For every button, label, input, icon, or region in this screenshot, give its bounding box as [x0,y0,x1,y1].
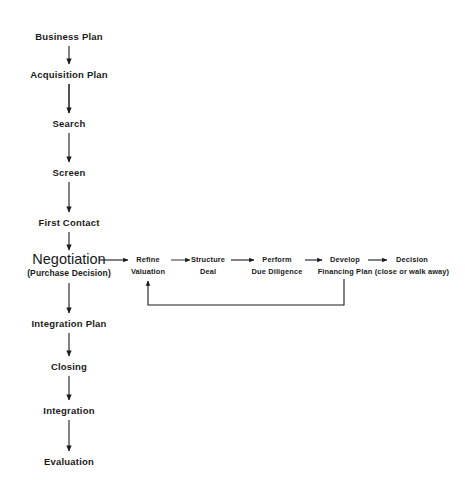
node-perform-due-diligence-line1: Perform [262,255,291,264]
node-structure-deal-line1: Structure [191,255,225,264]
node-business-plan[interactable]: Business Plan [35,31,103,42]
node-screen[interactable]: Screen [53,167,86,178]
node-closing[interactable]: Closing [51,361,87,372]
node-evaluation[interactable]: Evaluation [44,456,94,467]
node-decision-line1: Decision [396,255,428,264]
node-develop-financing-plan-line2: Financing Plan [318,266,373,278]
flowchart-canvas: Business Plan Acquisition Plan Search Sc… [0,0,465,499]
node-integration-plan[interactable]: Integration Plan [32,318,107,329]
node-negotiation-sublabel: (Purchase Decision) [27,268,111,279]
node-integration[interactable]: Integration [43,405,94,416]
arrow-feedback-loop [148,279,344,305]
node-refine-valuation-line1: Refine [136,255,160,264]
node-refine-valuation-line2: Valuation [131,266,165,278]
node-search[interactable]: Search [53,118,86,129]
node-decision[interactable]: Decision (close or walk away) [375,254,449,277]
node-negotiation[interactable]: Negotiation (Purchase Decision) [27,251,111,279]
node-negotiation-label: Negotiation [32,251,105,267]
node-acquisition-plan[interactable]: Acquisition Plan [30,69,108,80]
node-structure-deal-line2: Deal [191,266,225,278]
node-structure-deal[interactable]: Structure Deal [191,254,225,277]
node-refine-valuation[interactable]: Refine Valuation [131,254,165,277]
node-develop-financing-plan[interactable]: Develop Financing Plan [318,254,373,277]
node-decision-line2: (close or walk away) [375,266,449,278]
node-perform-due-diligence[interactable]: Perform Due Diligence [252,254,303,277]
node-develop-financing-plan-line1: Develop [330,255,360,264]
node-perform-due-diligence-line2: Due Diligence [252,266,303,278]
node-first-contact[interactable]: First Contact [38,217,99,228]
